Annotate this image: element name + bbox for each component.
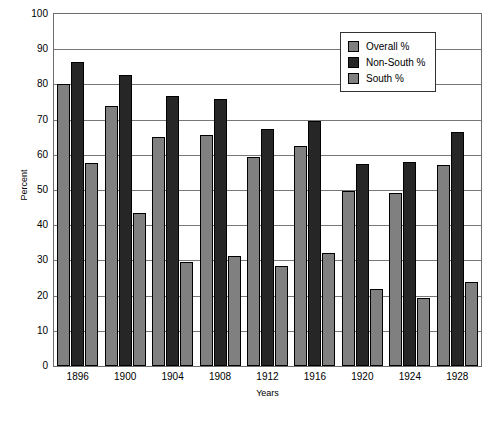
bar-group — [105, 14, 146, 366]
bar[interactable] — [465, 282, 478, 366]
x-tick-label: 1900 — [101, 371, 148, 383]
bar-group — [247, 14, 288, 366]
y-axis-tick-labels: 1009080706050403020100 — [14, 13, 48, 367]
bar[interactable] — [322, 253, 335, 366]
bar[interactable] — [451, 132, 464, 366]
legend: Overall %Non-South %South % — [340, 32, 436, 92]
bar[interactable] — [417, 298, 430, 366]
bar[interactable] — [389, 193, 402, 366]
legend-label: Non-South % — [366, 57, 425, 68]
y-tick-label: 30 — [14, 255, 48, 265]
y-tick-label: 70 — [14, 115, 48, 125]
legend-item[interactable]: Non-South % — [348, 54, 425, 70]
legend-swatch-icon — [348, 73, 359, 84]
bar[interactable] — [308, 121, 321, 366]
bar[interactable] — [214, 99, 227, 366]
x-tick-label: 1908 — [196, 371, 243, 383]
bar[interactable] — [119, 75, 132, 366]
legend-label: South % — [366, 73, 404, 84]
bar[interactable] — [57, 84, 70, 366]
legend-swatch-icon — [348, 57, 359, 68]
bar[interactable] — [294, 146, 307, 366]
legend-item[interactable]: Overall % — [348, 38, 425, 54]
x-axis-tick-labels: 189619001904190819121916192019241928 — [53, 371, 482, 385]
bar[interactable] — [152, 137, 165, 367]
bar-chart: Percent 1009080706050403020100 Overall %… — [0, 0, 492, 432]
bar[interactable] — [356, 164, 369, 366]
x-tick-label: 1896 — [54, 371, 101, 383]
bar-group — [437, 14, 478, 366]
bar[interactable] — [166, 96, 179, 366]
bar[interactable] — [437, 165, 450, 366]
y-tick-label: 10 — [14, 326, 48, 336]
bar[interactable] — [403, 162, 416, 366]
y-tick-label: 50 — [14, 185, 48, 195]
y-tick-label: 0 — [14, 361, 48, 371]
x-tick-label: 1912 — [244, 371, 291, 383]
x-tick-label: 1928 — [434, 371, 481, 383]
legend-item[interactable]: South % — [348, 70, 425, 86]
bar[interactable] — [105, 106, 118, 366]
bar[interactable] — [370, 289, 383, 366]
x-tick-label: 1920 — [339, 371, 386, 383]
y-tick-label: 90 — [14, 44, 48, 54]
bar[interactable] — [200, 135, 213, 366]
bar[interactable] — [133, 213, 146, 366]
legend-swatch-icon — [348, 41, 359, 52]
bar[interactable] — [261, 129, 274, 366]
bar[interactable] — [228, 256, 241, 366]
y-tick-label: 40 — [14, 220, 48, 230]
bar-group — [152, 14, 193, 366]
x-axis-title: Years — [53, 388, 482, 398]
bar[interactable] — [275, 266, 288, 366]
legend-label: Overall % — [366, 41, 409, 52]
bar[interactable] — [247, 157, 260, 366]
bar-group — [200, 14, 241, 366]
y-tick-label: 80 — [14, 79, 48, 89]
bar-group — [294, 14, 335, 366]
bar-group — [57, 14, 98, 366]
bar[interactable] — [342, 191, 355, 366]
y-tick-label: 60 — [14, 150, 48, 160]
y-tick-label: 100 — [14, 9, 48, 19]
bar[interactable] — [85, 163, 98, 366]
bar[interactable] — [180, 262, 193, 366]
bar[interactable] — [71, 62, 84, 366]
x-tick-label: 1904 — [149, 371, 196, 383]
x-tick-label: 1924 — [386, 371, 433, 383]
x-tick-label: 1916 — [291, 371, 338, 383]
y-tick-label: 20 — [14, 291, 48, 301]
